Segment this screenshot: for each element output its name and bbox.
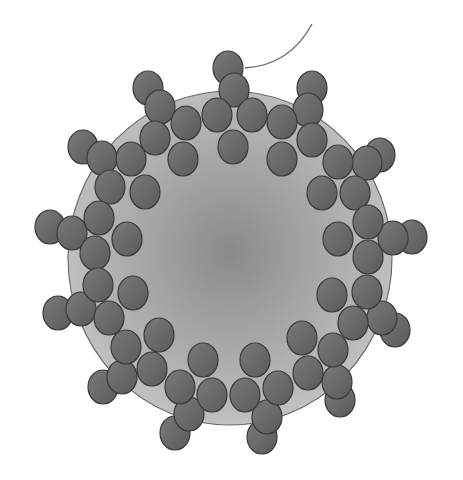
surface-knob bbox=[130, 175, 160, 209]
surface-knob bbox=[171, 106, 201, 140]
surface-knob bbox=[318, 333, 348, 367]
surface-knob bbox=[237, 98, 267, 132]
surface-knob bbox=[140, 121, 170, 155]
surface-knob bbox=[202, 98, 232, 132]
surface-knob bbox=[352, 146, 382, 180]
surface-knob bbox=[322, 365, 352, 399]
surface-knob bbox=[323, 222, 353, 256]
surface-knob bbox=[116, 142, 146, 176]
surface-knob bbox=[293, 356, 323, 390]
surface-knob bbox=[230, 378, 260, 412]
surface-knob bbox=[267, 142, 297, 176]
illustration-canvas bbox=[0, 0, 463, 480]
surface-knob bbox=[95, 170, 125, 204]
surface-knob bbox=[197, 378, 227, 412]
surface-knob bbox=[111, 330, 141, 364]
surface-knob bbox=[144, 318, 174, 352]
surface-knob bbox=[240, 343, 270, 377]
surface-knob bbox=[218, 130, 248, 164]
surface-knob bbox=[352, 275, 382, 309]
surface-knob bbox=[80, 236, 110, 270]
surface-knob bbox=[137, 352, 167, 386]
surface-knob bbox=[188, 343, 218, 377]
particle-illustration bbox=[0, 0, 463, 480]
tail-filament bbox=[245, 24, 312, 68]
surface-knob bbox=[107, 360, 137, 394]
surface-knob bbox=[353, 205, 383, 239]
surface-knob bbox=[84, 201, 114, 235]
surface-knob bbox=[307, 176, 337, 210]
surface-knob bbox=[165, 370, 195, 404]
surface-knob bbox=[353, 240, 383, 274]
surface-knob bbox=[317, 278, 347, 312]
surface-knob bbox=[118, 276, 148, 310]
surface-knob bbox=[145, 90, 175, 124]
surface-knob bbox=[94, 301, 124, 335]
surface-knob bbox=[83, 268, 113, 302]
surface-knob bbox=[267, 105, 297, 139]
surface-knob bbox=[297, 123, 327, 157]
surface-knob bbox=[263, 371, 293, 405]
surface-knob bbox=[323, 145, 353, 179]
surface-knob bbox=[338, 306, 368, 340]
surface-knob bbox=[287, 321, 317, 355]
surface-knob bbox=[168, 142, 198, 176]
surface-knob bbox=[112, 222, 142, 256]
